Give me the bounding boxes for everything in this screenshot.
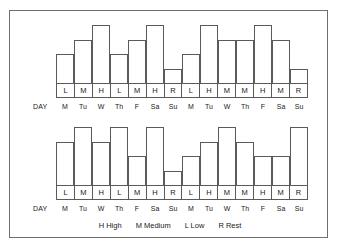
chart-bottom-plot-area	[56, 127, 308, 185]
intensity-cell: M	[272, 186, 290, 199]
intensity-cell: R	[165, 186, 183, 199]
intensity-cell: M	[129, 186, 147, 199]
bar-fill	[182, 54, 200, 83]
bar	[236, 25, 254, 83]
bar	[92, 127, 110, 185]
bar-fill	[74, 127, 92, 185]
chart-top-day-axis: DAY MTuWThFSaSuMTuWThFSaSu	[32, 100, 308, 112]
intensity-cell: H	[200, 186, 218, 199]
intensity-cell: M	[272, 84, 290, 97]
day-label: M	[182, 205, 200, 212]
intensity-cell: H	[200, 84, 218, 97]
intensity-cell: H	[93, 186, 111, 199]
intensity-cell: R	[165, 84, 183, 97]
chart-bottom-bars	[56, 127, 308, 185]
bar	[218, 127, 236, 185]
chart-top-day-labels: MTuWThFSaSuMTuWThFSaSu	[56, 103, 308, 110]
day-label: Tu	[200, 103, 218, 110]
bar-fill	[218, 127, 236, 185]
day-axis-label: DAY	[32, 103, 56, 110]
day-label: M	[56, 205, 74, 212]
bar-fill	[182, 156, 200, 185]
bar-fill	[128, 156, 146, 185]
day-label: Th	[110, 205, 128, 212]
chart-bottom-day-axis: DAY MTuWThFSaSuMTuWThFSaSu	[32, 202, 308, 214]
intensity-cell: L	[182, 186, 200, 199]
chart-top-plot-area	[56, 25, 308, 83]
day-label: F	[128, 103, 146, 110]
bar	[200, 25, 218, 83]
bar-fill	[290, 69, 308, 84]
intensity-cell: M	[129, 84, 147, 97]
chart-bottom: LMHLMHRLHMMHMR DAY MTuWThFSaSuMTuWThFSaS…	[32, 127, 308, 213]
bar	[128, 127, 146, 185]
day-label: Su	[290, 205, 308, 212]
bar-fill	[110, 127, 128, 185]
legend-item-r: R Rest	[218, 221, 241, 230]
day-axis-label: DAY	[32, 205, 56, 212]
bar	[56, 25, 74, 83]
day-label: Th	[110, 103, 128, 110]
day-label: Su	[164, 103, 182, 110]
bar-fill	[272, 40, 290, 84]
chart-top-intensity-row: LMHLMHRLHMMHMR	[56, 83, 308, 98]
bar	[290, 25, 308, 83]
bar-fill	[236, 40, 254, 84]
bar	[272, 127, 290, 185]
bar-fill	[92, 25, 110, 83]
day-label: Tu	[74, 205, 92, 212]
day-label: Sa	[146, 205, 164, 212]
bar	[74, 25, 92, 83]
chart-bottom-intensity-row: LMHLMHRLHMMHMR	[56, 185, 308, 200]
intensity-cell: L	[182, 84, 200, 97]
day-label: F	[254, 103, 272, 110]
day-label: F	[128, 205, 146, 212]
legend-item-l: L Low	[185, 221, 205, 230]
bar-fill	[200, 142, 218, 186]
legend: H HighM MediumL LowR Rest	[32, 221, 308, 230]
intensity-cell: R	[290, 84, 307, 97]
day-label: W	[218, 205, 236, 212]
bar	[128, 25, 146, 83]
intensity-cell: H	[254, 84, 272, 97]
bar	[164, 127, 182, 185]
intensity-cell: L	[111, 84, 129, 97]
bar-fill	[218, 40, 236, 84]
bar-fill	[164, 69, 182, 84]
intensity-cell: L	[57, 186, 75, 199]
day-label: Th	[236, 103, 254, 110]
day-label: W	[92, 205, 110, 212]
bar-fill	[272, 156, 290, 185]
intensity-cell: M	[218, 186, 236, 199]
bar-fill	[92, 142, 110, 186]
intensity-cell: L	[111, 186, 129, 199]
day-label: W	[218, 103, 236, 110]
bar	[74, 127, 92, 185]
intensity-cell: M	[75, 84, 93, 97]
legend-item-h: H High	[99, 221, 122, 230]
bar-fill	[290, 127, 308, 185]
bar	[290, 127, 308, 185]
bar	[110, 127, 128, 185]
bar-fill	[236, 142, 254, 186]
bar	[254, 25, 272, 83]
bar	[146, 127, 164, 185]
day-label: Sa	[146, 103, 164, 110]
intensity-cell: M	[236, 186, 254, 199]
day-label: Su	[164, 205, 182, 212]
day-label: F	[254, 205, 272, 212]
day-label: Tu	[74, 103, 92, 110]
bar	[254, 127, 272, 185]
chart-bottom-day-labels: MTuWThFSaSuMTuWThFSaSu	[56, 205, 308, 212]
day-label: M	[56, 103, 74, 110]
bar	[200, 127, 218, 185]
bar	[236, 127, 254, 185]
bar	[146, 25, 164, 83]
intensity-cell: H	[93, 84, 111, 97]
intensity-cell: H	[147, 84, 165, 97]
bar-fill	[74, 40, 92, 84]
bar	[218, 25, 236, 83]
day-label: W	[92, 103, 110, 110]
intensity-cell: H	[254, 186, 272, 199]
intensity-cell: M	[218, 84, 236, 97]
